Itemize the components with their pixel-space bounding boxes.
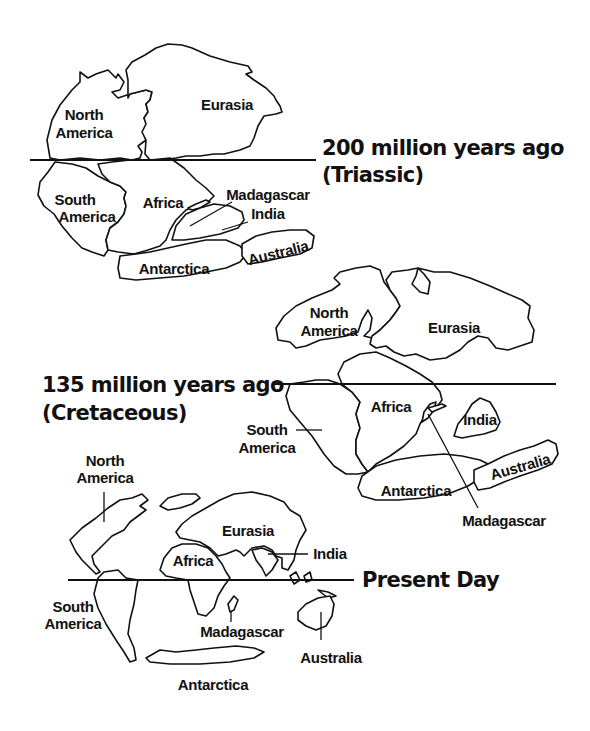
present-greenland-landmass xyxy=(160,494,200,510)
cretaceous-label-antarctica: Antarctica xyxy=(381,482,452,499)
present-label-south-america-line2: America xyxy=(44,615,102,632)
triassic-label-madagascar: Madagascar xyxy=(226,186,310,203)
triassic-label-eurasia: Eurasia xyxy=(201,96,254,113)
triassic-era-subtitle: (Triassic) xyxy=(322,163,424,187)
cretaceous-label-south-america-line1: South xyxy=(247,421,288,438)
present-se-asia-islands xyxy=(290,572,336,598)
triassic-label-south-america-line2: America xyxy=(58,208,116,225)
present-label-eurasia: Eurasia xyxy=(222,522,275,539)
triassic-era-title: 200 million years ago xyxy=(322,136,564,160)
continental-drift-diagram: North America Eurasia South America Afri… xyxy=(0,0,590,731)
triassic-map: North America Eurasia South America Afri… xyxy=(30,44,564,280)
present-australia-landmass xyxy=(298,596,334,630)
triassic-label-india: India xyxy=(251,205,285,222)
present-label-north-america-line1: North xyxy=(86,452,125,469)
cretaceous-label-eurasia: Eurasia xyxy=(428,319,481,336)
present-era-title: Present Day xyxy=(362,568,500,592)
triassic-label-north-america-line2: America xyxy=(55,124,113,141)
present-madagascar-landmass xyxy=(228,596,238,612)
present-label-africa: Africa xyxy=(173,552,215,569)
cretaceous-label-africa: Africa xyxy=(371,398,413,415)
triassic-label-antarctica: Antarctica xyxy=(139,260,210,277)
present-label-india: India xyxy=(313,545,347,562)
cretaceous-era-title: 135 million years ago xyxy=(42,373,284,397)
present-label-north-america-line2: America xyxy=(76,469,134,486)
diagram-canvas: North America Eurasia South America Afri… xyxy=(0,0,590,731)
cretaceous-map: North America Eurasia South America Afri… xyxy=(42,266,558,529)
cretaceous-era-subtitle: (Cretaceous) xyxy=(42,401,187,425)
cretaceous-label-south-america-line2: America xyxy=(238,439,296,456)
present-antarctica-landmass xyxy=(146,646,264,664)
cretaceous-label-madagascar: Madagascar xyxy=(462,512,546,529)
cretaceous-label-north-america-line1: North xyxy=(310,304,349,321)
triassic-label-south-america-line1: South xyxy=(55,191,96,208)
cretaceous-label-north-america-line2: America xyxy=(300,322,358,339)
present-north-america-landmass xyxy=(70,494,148,574)
cretaceous-eurasia-landmass xyxy=(370,268,534,360)
present-label-south-america-line1: South xyxy=(53,598,94,615)
cretaceous-label-india: India xyxy=(463,411,497,428)
present-label-madagascar: Madagascar xyxy=(200,623,284,640)
present-label-antarctica: Antarctica xyxy=(178,676,249,693)
triassic-label-north-america-line1: North xyxy=(65,106,104,123)
triassic-label-africa: Africa xyxy=(143,194,185,211)
present-label-australia: Australia xyxy=(300,649,362,666)
